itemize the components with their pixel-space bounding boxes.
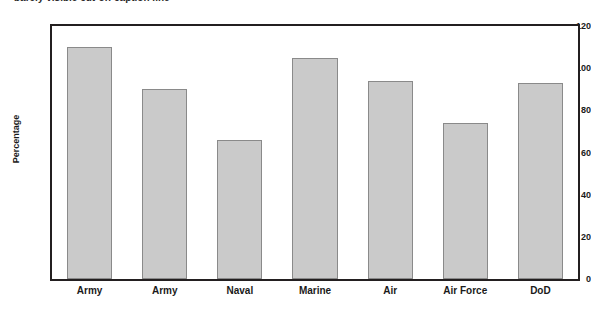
x-axis-tick-label: Air [353, 285, 428, 297]
cut-off-caption: barely visible cut-off caption line [14, 0, 574, 8]
x-axis-tick-label: Army [127, 285, 202, 297]
x-axis-tick-labels: ArmyArmyNavalMarineAirAir ForceDoD [52, 285, 578, 311]
bar-series [52, 26, 578, 279]
bar [142, 89, 187, 279]
y-axis-title: Percentage [11, 99, 21, 179]
chart-figure: barely visible cut-off caption line Perc… [0, 0, 591, 311]
x-axis-tick-label: Naval [202, 285, 277, 297]
bar [443, 123, 488, 279]
x-axis-tick-label: Marine [277, 285, 352, 297]
bar [518, 83, 563, 279]
x-axis-tick-label: DoD [503, 285, 578, 297]
bar [292, 58, 337, 279]
bar [67, 47, 112, 279]
x-axis-tick-label: Air Force [428, 285, 503, 297]
x-axis-tick-label: Army [52, 285, 127, 297]
bar [217, 140, 262, 279]
bar [368, 81, 413, 279]
